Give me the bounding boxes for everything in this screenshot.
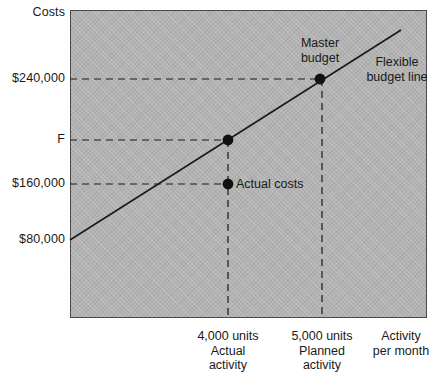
flexible-budget-chart: Costs $240,000 F $160,000 $80,000 4,000 …: [0, 0, 440, 385]
y-tick-label-240000: $240,000: [0, 72, 65, 85]
x-tick-sublabel-planned: Planned: [272, 344, 372, 359]
annotation-master-budget: Master budget: [272, 36, 368, 65]
annotation-flexible-budget-line: Flexible budget line: [355, 55, 439, 84]
x-axis-title: Activity per month: [366, 329, 436, 358]
x-tick-sublabel-activity: activity: [178, 358, 278, 373]
x-tick-label-4000-units: 4,000 units: [178, 329, 278, 344]
x-axis-title-line1: Activity: [366, 329, 436, 344]
x-axis-title-line2: per month: [366, 344, 436, 359]
annotation-flexible-line1: Flexible: [355, 55, 439, 70]
marker-flexible-budget-at-actual: [223, 135, 234, 146]
marker-actual-costs: [223, 179, 234, 190]
x-tick-group-actual-activity: 4,000 units Actual activity: [178, 329, 278, 373]
y-tick-label-160000: $160,000: [0, 177, 65, 190]
annotation-master-budget-line1: Master: [272, 36, 368, 51]
x-tick-group-planned-activity: 5,000 units Planned activity: [272, 329, 372, 373]
x-tick-sublabel-actual: Actual: [178, 344, 278, 359]
marker-master-budget: [315, 74, 326, 85]
x-tick-label-5000-units: 5,000 units: [272, 329, 372, 344]
y-tick-label-80000: $80,000: [0, 233, 65, 246]
annotation-actual-costs: Actual costs: [236, 177, 303, 192]
y-tick-label-f: F: [0, 133, 65, 146]
annotation-flexible-line2: budget line: [355, 70, 439, 85]
annotation-master-budget-line2: budget: [272, 51, 368, 66]
y-axis-title: Costs: [0, 6, 65, 19]
x-tick-sublabel-activity: activity: [272, 358, 372, 373]
